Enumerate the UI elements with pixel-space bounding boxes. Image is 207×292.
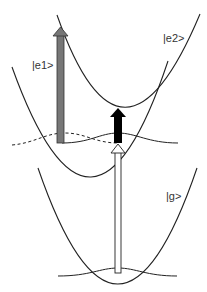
- e1-label: |e1>: [32, 60, 54, 71]
- black-arrow: [110, 108, 126, 143]
- e2-potential-curve: [57, 14, 200, 107]
- energy-level-diagram: |e1> |e2> |g>: [0, 0, 207, 292]
- e2-label: |e2>: [163, 33, 185, 44]
- g-label: |g>: [166, 191, 181, 202]
- white-arrow: [111, 144, 125, 273]
- e1-potential-curve: [12, 61, 168, 177]
- gray-arrow: [53, 27, 68, 143]
